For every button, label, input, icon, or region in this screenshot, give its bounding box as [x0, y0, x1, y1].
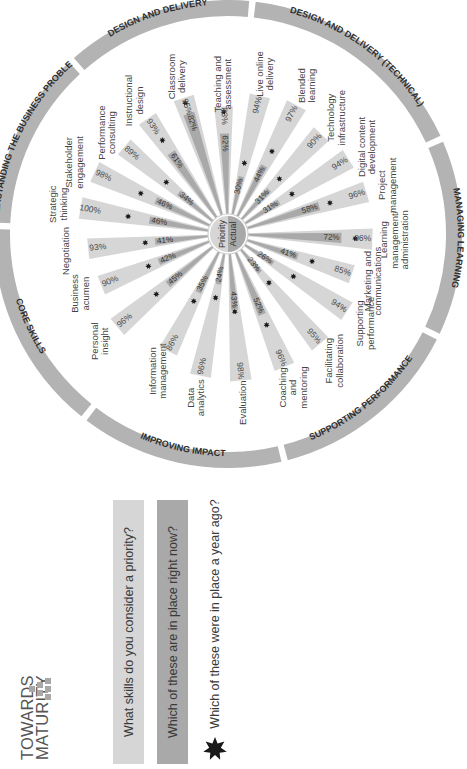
skill-label: Businessacumen	[69, 274, 91, 313]
radial-skills-chart: CORE SKILLSUNDERSTANDING THE BUSINESS PR…	[0, 0, 467, 500]
actual-value: 24%	[214, 266, 226, 283]
actual-value: 43%	[229, 291, 239, 308]
skill-label: Stakeholderengagement	[63, 136, 85, 189]
center-actual-label: Actual	[228, 221, 238, 246]
legend-actual-label: Which of these are in place right now?	[166, 526, 180, 738]
skill-label: Classroomdelivery	[166, 54, 188, 99]
skill-label: Supportingperformance	[354, 297, 376, 350]
priority-value: 93%	[89, 241, 107, 253]
actual-value: 72%	[323, 232, 339, 242]
skill-label: Teaching andassessment	[212, 56, 234, 113]
priority-value: 96%	[354, 233, 372, 244]
center-priority-label: Priority	[217, 220, 227, 249]
category-ring-segment: IMPROVING IMPACT	[87, 408, 282, 468]
actual-value: 41%	[157, 235, 174, 246]
category-ring-segment: MANAGING LEARNING	[425, 142, 466, 334]
towards-maturity-logo: TOWARDS MATURITY	[20, 640, 60, 760]
legend-year-ago-label: Which of these were in place a year ago?	[208, 499, 222, 728]
logo-line-2: MATURITY	[35, 640, 50, 760]
skill-label: Instructionaldesign	[123, 75, 145, 126]
center-badge: PriorityActual	[208, 214, 248, 254]
skill-label: Performanceconsulting	[96, 105, 118, 159]
legend-priority: What skills do you consider a priority?	[113, 500, 144, 764]
category-ring-segment: CORE SKILLS	[0, 229, 91, 416]
skill-label: Informationmanagement	[147, 343, 169, 399]
actual-value: 30%	[232, 177, 244, 195]
skill-label: Projectmanagement	[376, 157, 398, 213]
skill-label: Negotiation	[60, 227, 71, 275]
skill-label: Technologyinfrastructure	[325, 90, 347, 145]
skill-label: Digital contentdevelopment	[356, 117, 378, 178]
skill-label: Strategicthinking	[47, 185, 69, 223]
skill-label: Blendedlearning	[296, 68, 318, 103]
legend-priority-label: What skills do you consider a priority?	[122, 527, 136, 737]
legend-year-ago: Which of these were in place a year ago?	[200, 500, 230, 764]
star-icon	[202, 736, 228, 762]
priority-value: 98%	[235, 362, 246, 380]
actual-value: 41%	[279, 246, 297, 260]
skill-label: Personalinsight	[89, 322, 111, 360]
actual-value: 62%	[220, 135, 230, 151]
skill-label: Dataanalytics	[185, 379, 207, 416]
skill-label: Live onlinedelivery	[254, 51, 276, 96]
skill-label: Coachingandmentoring	[277, 366, 309, 408]
skill-label: Evaluation	[237, 381, 248, 425]
legend-actual: Which of these are in place right now?	[157, 500, 188, 764]
skill-label: Facilitatingcollaboration	[323, 334, 345, 388]
